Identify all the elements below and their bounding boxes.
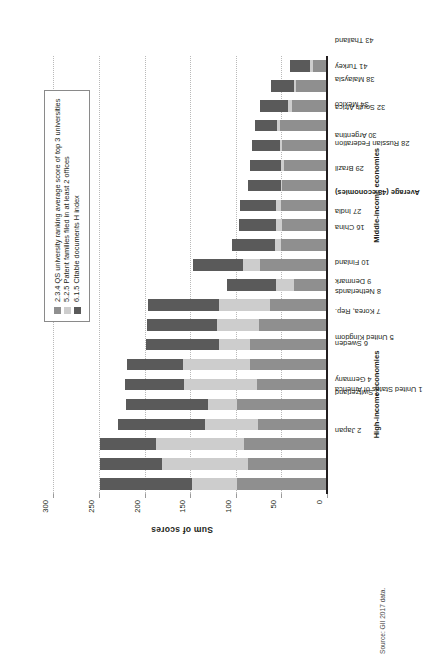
- value-axis-tick-label: 150: [178, 500, 187, 513]
- legend-item[interactable]: 2.3.4 QS university ranking average scor…: [54, 99, 61, 314]
- legend-item-label: 5.2.5 Patent families filed in at least …: [63, 156, 70, 302]
- legend-item[interactable]: 6.1.5 Citable documents H index: [73, 99, 80, 314]
- legend-item[interactable]: 5.2.5 Patent families filed in at least …: [63, 99, 70, 314]
- value-axis-tick-label: 50: [269, 500, 278, 508]
- legend-swatch-icon: [64, 307, 71, 314]
- group-band-labels: High-income economiesMiddle-income econo…: [328, 56, 388, 494]
- legend: 2.3.4 QS university ranking average scor…: [44, 90, 90, 322]
- value-axis-tick-mark: [53, 494, 54, 498]
- legend-swatch-icon: [74, 307, 81, 314]
- value-axis-tick-mark: [145, 494, 146, 498]
- value-axis-tick-mark: [99, 494, 100, 498]
- source-note: Source: GII 2017 data.: [379, 588, 386, 654]
- value-axis-tick-mark: [327, 494, 328, 498]
- value-axis-tick-label: 250: [86, 500, 95, 513]
- value-axis-tick-label: 0: [315, 500, 324, 504]
- value-axis-tick-label: 200: [132, 500, 141, 513]
- legend-swatch-icon: [54, 307, 61, 314]
- group-label: Middle-income economies: [372, 148, 381, 243]
- legend-item-label: 6.1.5 Citable documents H index: [73, 195, 80, 302]
- value-axis-tick-mark: [190, 494, 191, 498]
- value-axis-title: Sum of scores: [36, 522, 328, 538]
- value-axis-tick-mark: [281, 494, 282, 498]
- value-axis-tick-label: 300: [41, 500, 50, 513]
- value-axis-title-text: Sum of scores: [151, 525, 213, 535]
- value-axis-tick-mark: [236, 494, 237, 498]
- group-label: High-income economies: [372, 351, 381, 439]
- category-label: 43 Thailand: [335, 35, 374, 44]
- legend-item-label: 2.3.4 QS university ranking average scor…: [54, 99, 61, 302]
- value-axis-tick-label: 100: [223, 500, 232, 513]
